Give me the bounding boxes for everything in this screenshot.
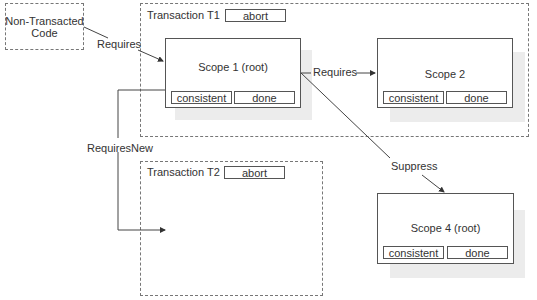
edge-label-requiresnew: RequiresNew — [87, 142, 153, 154]
connector-lines — [0, 0, 537, 300]
edge-label-code-requires: Requires — [97, 38, 141, 50]
edge-label-scope1-requires-scope2: Requires — [313, 66, 357, 78]
edge-label-suppress: Suppress — [391, 160, 437, 172]
